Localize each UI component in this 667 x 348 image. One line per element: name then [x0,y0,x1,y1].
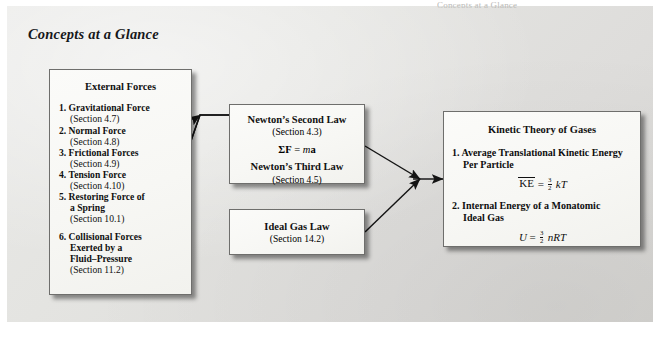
ideal-gas-law-section: (Section 14.2) [230,233,364,245]
ideal-gas-law-title: Ideal Gas Law [230,221,364,233]
list-item: 6. Collisional Forces Exerted by a Fluid… [59,231,187,275]
item-name: Internal Energy of a Monatomic [462,200,600,211]
external-forces-list: 1. Gravitational Force (Section 4.7) 2. … [50,102,191,275]
item-name-cont: Exerted by a [59,242,187,253]
external-forces-box: External Forces 1. Gravitational Force (… [49,69,192,295]
external-forces-title: External Forces [50,81,191,93]
item-name-cont2: Fluid–Pressure [59,253,187,264]
item-name: Tension Force [69,169,126,180]
item-number: 2. [59,125,66,136]
item-name: Average Translational Kinetic Energy [461,147,622,158]
ideal-gas-law-box: Ideal Gas Law (Section 14.2) [229,209,365,255]
item-name: Restoring Force of [69,191,145,202]
page-title: Concepts at a Glance [28,26,159,43]
list-item: 4. Tension Force (Section 4.10) [59,169,187,191]
list-item: 2. Internal Energy of a Monatomic Ideal … [452,200,633,223]
item-name: Collisional Forces [69,231,142,242]
item-section: (Section 11.2) [59,264,187,275]
kinetic-theory-title: Kinetic Theory of Gases [444,124,640,136]
list-item: 3. Frictional Forces (Section 4.9) [59,147,187,169]
item-name-cont: Per Particle [452,159,633,171]
newtons-third-law-section: (Section 4.5) [230,174,364,186]
list-item: 1. Average Translational Kinetic Energy … [452,147,633,170]
list-item: 2. Normal Force (Section 4.8) [59,125,187,147]
item-name-cont: Ideal Gas [452,212,633,224]
newtons-third-law-title: Newton’s Third Law [230,161,364,173]
item-name-cont: a Spring [59,202,187,213]
item-section: (Section 4.8) [59,136,187,147]
item-number: 2. [452,200,460,211]
item-section: (Section 10.1) [59,213,187,224]
list-item: 5. Restoring Force of a Spring (Section … [59,191,187,224]
item-number: 4. [59,169,66,180]
item-name: Frictional Forces [69,147,139,158]
concepts-at-a-glance-panel: Concepts at a Glance Concepts at a Glanc… [7,6,653,322]
newtons-second-law-equation: ΣF = ma [230,144,364,155]
kinetic-energy-equation: KE = 32 kT [452,177,633,192]
item-number: 6. [59,231,66,242]
item-number: 1. [59,102,66,113]
newtons-laws-box: Newton’s Second Law (Section 4.3) ΣF = m… [229,104,365,184]
item-name: Normal Force [69,125,126,136]
item-number: 1. [452,147,460,158]
newtons-second-law-section: (Section 4.3) [230,126,364,138]
item-number: 3. [59,147,66,158]
item-name: Gravitational Force [69,102,150,113]
item-section: (Section 4.9) [59,158,187,169]
kinetic-theory-list: 1. Average Translational Kinetic Energy … [444,147,640,244]
list-item: 1. Gravitational Force (Section 4.7) [59,102,187,124]
kinetic-theory-box: Kinetic Theory of Gases 1. Average Trans… [443,111,641,247]
internal-energy-equation: U = 32 nRT [452,230,633,245]
item-section: (Section 4.7) [59,113,187,124]
item-section: (Section 4.10) [59,180,187,191]
item-number: 5. [59,191,66,202]
newtons-second-law-title: Newton’s Second Law [230,114,364,126]
